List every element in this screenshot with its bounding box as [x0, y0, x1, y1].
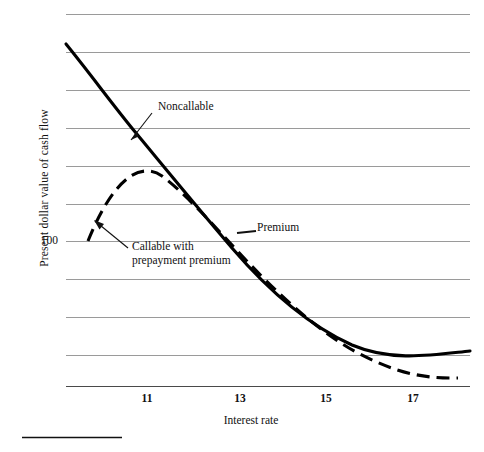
x-axis-title: Interest rate: [196, 414, 306, 426]
x-tick-label-11: 11: [132, 392, 162, 404]
x-tick-label-13: 13: [225, 392, 255, 404]
annotation-callable-line1: Callable with: [132, 239, 231, 253]
x-tick-label-17: 17: [398, 392, 428, 404]
leader-line-premium: [237, 231, 256, 233]
y-axis-title: Present dollar value of cash flow: [38, 48, 50, 328]
annotation-callable: Callable with prepayment premium: [132, 239, 231, 267]
series-callable-curve: [88, 171, 458, 378]
x-tick-label-15: 15: [311, 392, 341, 404]
leader-arrow-callable: [94, 220, 104, 230]
gridlines: [66, 15, 470, 356]
annotation-premium: Premium: [257, 220, 299, 234]
annotation-callable-line2: prepayment premium: [132, 253, 231, 267]
annotation-noncallable: Noncallable: [158, 99, 214, 113]
y-tick-label-100: 100: [22, 234, 58, 246]
chart-canvas: [0, 0, 484, 452]
figure-container: Present dollar value of cash flow 100 11…: [0, 0, 484, 452]
